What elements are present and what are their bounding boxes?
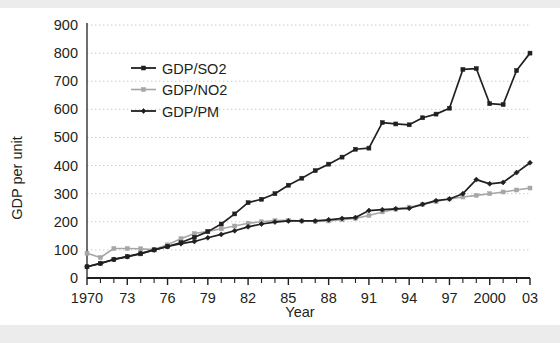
data-point [260,197,264,201]
x-tick-label: 2000 [474,290,506,306]
top-band [0,0,560,8]
legend-label: GDP/SO2 [162,61,226,77]
data-point [139,247,143,251]
x-tick-label: 1970 [71,290,103,306]
legend-item-gdp-so2[interactable]: GDP/SO2 [131,61,226,77]
data-point [487,181,492,186]
data-point [233,212,237,216]
x-tick-label: 91 [361,290,377,306]
data-point [367,146,371,150]
data-point [528,186,532,190]
data-point [407,123,411,127]
data-series-layer [85,51,533,269]
chart-figure: 0100200300400500600700800900 19707376798… [0,0,560,343]
y-tick-label: 800 [54,45,78,61]
legend-item-gdp-no2[interactable]: GDP/NO2 [131,82,227,98]
data-point [112,257,116,261]
x-tick-label: 73 [119,290,135,306]
data-point [380,121,384,125]
data-point [313,169,317,173]
data-point [166,245,170,249]
data-point [139,252,143,256]
data-point [206,230,210,234]
data-point [192,239,197,244]
legend-swatch-marker [141,109,146,114]
data-point [474,67,478,71]
data-point [85,251,89,255]
data-point [488,192,492,196]
data-point [273,192,277,196]
line-chart: 0100200300400500600700800900 19707376798… [0,8,560,325]
y-tick-label: 700 [54,73,78,89]
data-point [447,106,451,110]
legend-item-gdp-pm[interactable]: GDP/PM [131,104,219,120]
x-tick-label: 76 [159,290,175,306]
data-point [327,162,331,166]
data-point [98,255,102,259]
data-point [179,237,183,241]
data-point [98,261,102,265]
y-tick-label: 500 [54,129,78,145]
data-point [85,265,89,269]
legend-label: GDP/NO2 [162,82,227,98]
data-point [219,232,224,237]
data-point [179,241,183,245]
data-point [232,228,237,233]
legend-label: GDP/PM [162,104,219,120]
data-point [192,235,196,239]
data-point [340,155,344,159]
x-tick-marks [87,278,530,285]
y-tick-label: 100 [54,242,78,258]
data-point [367,214,371,218]
data-point [394,122,398,126]
y-tick-label: 300 [54,186,78,202]
data-point [353,147,357,151]
chart-plate: 0100200300400500600700800900 19707376798… [0,8,560,325]
series-line [87,53,530,267]
data-point [112,246,116,250]
x-tick-label: 82 [240,290,256,306]
data-point [233,224,237,228]
legend-swatch-marker [142,88,146,92]
data-point [192,232,196,236]
y-tick-labels: 0100200300400500600700800900 [54,17,78,286]
x-tick-label: 94 [401,290,417,306]
gridlines [87,25,530,250]
data-point [421,116,425,120]
data-point [246,201,250,205]
legend-swatch-marker [142,66,146,70]
data-point [205,235,210,240]
data-point [528,51,532,55]
x-tick-label: 88 [321,290,337,306]
axis-lines [87,23,530,278]
data-point [501,190,505,194]
bottom-band [0,325,560,343]
y-tick-label: 400 [54,158,78,174]
data-point [501,103,505,107]
y-axis-title: GDP per unit [9,136,25,220]
data-point [152,248,156,252]
data-point [219,227,223,231]
x-tick-label: 97 [441,290,457,306]
y-tick-label: 200 [54,214,78,230]
series-gdp-pm [85,160,533,269]
data-point [515,188,519,192]
y-tick-label: 600 [54,101,78,117]
series-gdp-so2 [85,51,532,269]
x-tick-label: 79 [200,290,216,306]
data-point [125,255,129,259]
y-tick-label: 0 [70,270,78,286]
data-point [515,69,519,73]
chart-legend: GDP/SO2GDP/NO2GDP/PM [131,61,227,120]
data-point [125,246,129,250]
data-point [434,112,438,116]
x-tick-label: 03 [522,290,538,306]
y-tick-label: 900 [54,17,78,33]
data-point [461,67,465,71]
data-point [286,183,290,187]
x-axis-title: Year [285,304,314,320]
data-point [300,176,304,180]
data-point [488,102,492,106]
data-point [219,222,223,226]
data-point [474,193,478,197]
